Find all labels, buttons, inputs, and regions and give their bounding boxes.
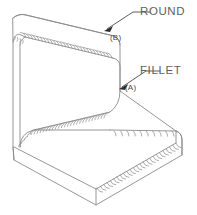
- isometric-block-illustration: [0, 0, 197, 215]
- technical-drawing-canvas: ROUND FILLET (B) (A): [0, 0, 197, 215]
- annotation-ref-a: (A): [125, 83, 136, 92]
- block-outline: [13, 14, 182, 205]
- annotation-label-fillet: FILLET: [140, 64, 181, 76]
- arrowhead-round: [104, 26, 113, 32]
- annotation-label-round: ROUND: [140, 5, 185, 17]
- annotation-ref-b: (B): [110, 33, 121, 42]
- block-solid: [13, 14, 182, 205]
